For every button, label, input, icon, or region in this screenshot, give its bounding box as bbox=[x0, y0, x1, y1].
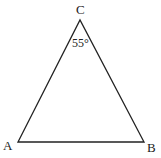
angle-c-label: 55° bbox=[72, 36, 89, 50]
vertex-label-b: B bbox=[147, 140, 156, 155]
vertex-label-a: A bbox=[3, 138, 13, 153]
vertex-label-c: C bbox=[76, 2, 85, 17]
triangle-diagram: C A B 55° bbox=[0, 0, 161, 158]
